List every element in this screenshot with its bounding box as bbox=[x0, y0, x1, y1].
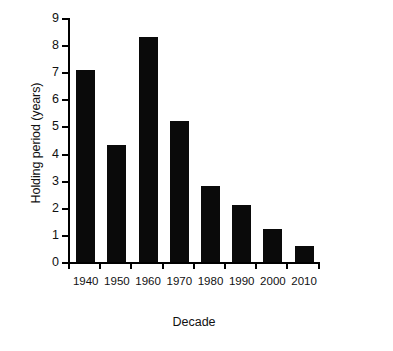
y-tick-label: 4 bbox=[52, 147, 59, 160]
plot-area: 0 1 2 3 4 5 6 7 bbox=[68, 18, 318, 262]
y-tick-mark bbox=[62, 45, 68, 47]
y-tick-mark bbox=[62, 18, 68, 20]
x-tick-mark bbox=[162, 262, 164, 269]
x-tick-label-1950: 1950 bbox=[104, 276, 130, 288]
y-tick-label: 5 bbox=[52, 120, 59, 133]
x-tick-label-1990: 1990 bbox=[229, 276, 255, 288]
x-tick-mark bbox=[193, 262, 195, 269]
y-tick-mark bbox=[62, 154, 68, 156]
y-axis-line bbox=[68, 18, 70, 262]
x-tick-mark bbox=[130, 262, 132, 269]
x-tick-label-1970: 1970 bbox=[167, 276, 193, 288]
x-tick-mark bbox=[224, 262, 226, 269]
x-tick-label-2010: 2010 bbox=[291, 276, 317, 288]
y-tick-label: 0 bbox=[52, 256, 59, 269]
x-tick-mark bbox=[286, 262, 288, 269]
bar-1990 bbox=[232, 205, 251, 262]
y-axis-title: Holding period (years) bbox=[29, 48, 43, 238]
x-tick-label-1980: 1980 bbox=[198, 276, 224, 288]
bar-2010 bbox=[295, 246, 314, 262]
y-tick-label: 8 bbox=[52, 39, 59, 52]
x-tick-label-2000: 2000 bbox=[260, 276, 286, 288]
y-tick-label: 1 bbox=[52, 229, 59, 242]
y-tick-mark bbox=[62, 126, 68, 128]
bar-1980 bbox=[201, 186, 220, 262]
y-tick-mark bbox=[62, 208, 68, 210]
y-tick-mark bbox=[62, 235, 68, 237]
x-tick-mark bbox=[99, 262, 101, 269]
x-tick-mark bbox=[68, 262, 70, 269]
y-tick-label: 9 bbox=[52, 12, 59, 25]
x-tick-label-1940: 1940 bbox=[73, 276, 99, 288]
bar-2000 bbox=[263, 229, 282, 262]
x-axis-title: Decade bbox=[68, 315, 320, 329]
y-tick-label: 6 bbox=[52, 93, 59, 106]
bar-1970 bbox=[170, 121, 189, 262]
bar-1960 bbox=[139, 37, 158, 262]
bar-1940 bbox=[76, 70, 95, 262]
y-tick-label: 2 bbox=[52, 202, 59, 215]
x-tick-mark bbox=[318, 262, 320, 269]
y-tick-label: 7 bbox=[52, 66, 59, 79]
y-tick-mark bbox=[62, 99, 68, 101]
y-tick-mark bbox=[62, 72, 68, 74]
y-tick-label: 3 bbox=[52, 174, 59, 187]
bar-1950 bbox=[107, 145, 126, 262]
x-tick-label-1960: 1960 bbox=[135, 276, 161, 288]
holding-period-bar-chart: Holding period (years) 0 1 2 3 4 5 bbox=[0, 0, 393, 351]
x-tick-mark bbox=[255, 262, 257, 269]
y-tick-mark bbox=[62, 181, 68, 183]
